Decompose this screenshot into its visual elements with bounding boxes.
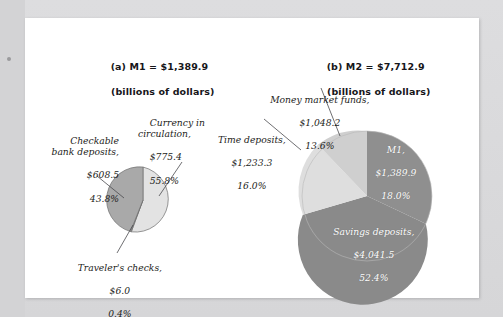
inner-savings-percent: 52.4% bbox=[359, 272, 388, 283]
callout-time-value: $1,233.3 bbox=[231, 157, 272, 168]
callout-checkable-bank-deposits: Checkable bank deposits, $608.5 43.8% bbox=[31, 123, 119, 216]
panel-a-title-line1: (a) M1 = $1,389.9 bbox=[111, 61, 209, 72]
panel-b-title-line1: (b) M2 = $7,712.9 bbox=[327, 61, 425, 72]
callout-checkable-percent: 43.8% bbox=[90, 193, 119, 204]
gutter-dot-icon bbox=[7, 57, 11, 61]
callout-travelers-checks: Traveler's checks, $6.0 0.4% bbox=[60, 250, 168, 317]
callout-travelers-percent: 0.4% bbox=[108, 308, 131, 317]
callout-mmf-name: Money market funds, bbox=[270, 94, 369, 105]
callout-currency-name: Currency in circulation, bbox=[138, 117, 205, 140]
callout-checkable-name: Checkable bank deposits, bbox=[52, 135, 119, 158]
inner-savings-name: Savings deposits, bbox=[333, 226, 414, 237]
inner-m1-percent: 18.0% bbox=[381, 190, 410, 201]
callout-currency-value: $775.4 bbox=[150, 151, 182, 162]
callout-travelers-value: $6.0 bbox=[110, 285, 130, 296]
figure-card: (a) M1 = $1,389.9 (billions of dollars) … bbox=[25, 18, 479, 298]
inner-m1-name: M1, bbox=[387, 144, 405, 155]
page-left-gutter bbox=[0, 0, 25, 317]
panel-a-title-line2: (billions of dollars) bbox=[97, 86, 214, 99]
callout-time-name: Time deposits, bbox=[218, 134, 286, 145]
callout-checkable-value: $608.5 bbox=[87, 169, 119, 180]
inner-m1-value: $1,389.9 bbox=[375, 167, 416, 178]
callout-travelers-name: Traveler's checks, bbox=[78, 262, 162, 273]
inner-savings-value: $4,041.5 bbox=[353, 249, 394, 260]
inner-label-savings-deposits: Savings deposits, $4,041.5 52.4% bbox=[306, 214, 430, 295]
callout-time-percent: 16.0% bbox=[237, 180, 266, 191]
callout-mmf-percent: 13.6% bbox=[305, 140, 334, 151]
callout-time-deposits: Time deposits, $1,233.3 16.0% bbox=[196, 122, 296, 203]
callout-mmf-value: $1,048.2 bbox=[299, 117, 340, 128]
inner-label-m1: M1, $1,389.9 18.0% bbox=[349, 132, 431, 213]
callout-currency-percent: 55.8% bbox=[150, 175, 179, 186]
